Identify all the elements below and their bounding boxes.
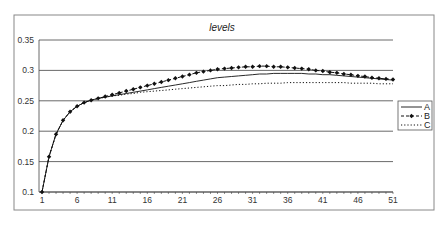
y-tick-label: 0.3: [22, 65, 34, 75]
x-tick-label: 16: [143, 195, 153, 205]
y-tick-label: 0.1: [22, 187, 34, 197]
x-tick-label: 11: [108, 195, 117, 205]
y-tick-label: 0.35: [17, 35, 34, 45]
x-tick-label: 21: [178, 195, 188, 205]
x-tick-label: 36: [283, 195, 293, 205]
x-tick-label: 51: [388, 195, 398, 205]
chart-title: levels: [209, 22, 235, 33]
x-tick-label: 31: [248, 195, 258, 205]
legend-label-c: C: [424, 120, 431, 130]
y-tick-label: 0.25: [17, 96, 34, 106]
x-tick-label: 6: [75, 195, 80, 205]
x-tick-label: 46: [353, 195, 363, 205]
x-tick-label: 1: [40, 195, 45, 205]
x-tick-label: 41: [318, 195, 328, 205]
x-tick-label: 26: [213, 195, 223, 205]
legend: ABC: [398, 101, 432, 130]
line-chart: levels 0.10.150.20.250.30.35 16111621263…: [0, 0, 447, 226]
chart-frame: [14, 15, 434, 210]
y-tick-label: 0.2: [22, 126, 34, 136]
y-tick-label: 0.15: [17, 157, 34, 167]
